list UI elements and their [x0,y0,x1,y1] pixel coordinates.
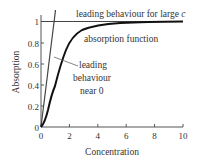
y-tick-label: 0.4 [28,81,40,91]
chart-svg: 0 2 4 6 8 10 0 0.2 0.4 0.6 0.8 1 Concent… [0,0,204,164]
chart-figure: 0 2 4 6 8 10 0 0.2 0.4 0.6 0.8 1 Concent… [0,0,204,164]
y-axis-label: Absorption [11,50,21,93]
x-tick-label: 0 [39,131,44,141]
x-tick-label: 2 [67,131,72,141]
y-tick-labels: 0 0.2 0.4 0.6 0.8 1 [28,17,40,133]
label-large-c-var: c [181,9,186,19]
label-large-c: leading behaviour for large c [76,9,186,19]
y-tick-label: 1 [35,17,40,27]
label-near-zero-2: behaviour [73,73,112,83]
x-tick-label: 10 [179,131,189,141]
x-tick-label: 4 [96,131,101,141]
label-absorption-function: absorption function [84,34,158,44]
x-axis-label: Concentration [85,147,139,157]
x-tick-label: 6 [124,131,129,141]
y-tick-label: 0 [35,123,40,133]
label-near-zero-3: near 0 [80,86,104,96]
y-tick-label: 0.8 [28,39,40,49]
label-large-c-text: leading behaviour for large [76,9,181,19]
label-near-zero-1: leading [79,60,107,70]
near-zero-leader [54,57,78,66]
y-tick-label: 0.2 [28,102,39,112]
x-tick-labels: 0 2 4 6 8 10 [39,131,188,141]
y-tick-label: 0.6 [28,60,40,70]
x-tick-label: 8 [152,131,157,141]
